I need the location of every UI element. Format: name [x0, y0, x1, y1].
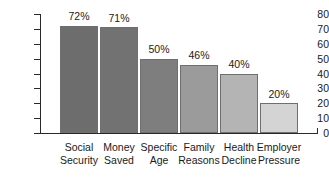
bar-chart: 01020304050607080 72%71%50%46%40%20% Soc… — [0, 0, 329, 180]
y-axis-tick — [34, 118, 40, 119]
y-axis-tick — [34, 14, 40, 15]
bar-slot: 72% — [60, 14, 98, 133]
bar-slot: 71% — [100, 14, 138, 133]
y-axis-tick — [34, 59, 40, 60]
plot-area: 72%71%50%46%40%20% — [41, 14, 318, 133]
bar — [180, 65, 218, 133]
y-axis-tick — [34, 29, 40, 30]
y-axis-tick — [34, 74, 40, 75]
bar-slot: 46% — [180, 14, 218, 133]
category-label-line: Employer — [252, 141, 306, 154]
category-label-line: Pressure — [252, 154, 306, 167]
category-label: EmployerPressure — [252, 141, 306, 167]
bar-value-label: 20% — [246, 89, 312, 100]
y-axis-tick — [34, 44, 40, 45]
bar-slot: 50% — [140, 14, 178, 133]
y-axis-tick — [34, 103, 40, 104]
bar — [140, 59, 178, 133]
y-axis-tick — [34, 88, 40, 89]
bar — [220, 74, 258, 134]
bar — [60, 26, 98, 133]
bar-slot: 20% — [260, 14, 298, 133]
x-axis-line — [40, 133, 318, 134]
bar-slot: 40% — [220, 14, 258, 133]
category-axis-labels: SocialSecurityMoneySavedSpecificAgeFamil… — [41, 141, 318, 177]
bar — [260, 103, 298, 133]
